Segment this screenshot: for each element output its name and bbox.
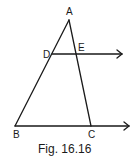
label-e: E [78,42,85,53]
label-b: B [13,129,20,140]
label-c: C [88,129,95,140]
label-d: D [43,49,50,60]
label-a: A [66,6,73,17]
figure-caption: Fig. 16.16 [38,142,92,156]
triangle-diagram: A D E B C Fig. 16.16 [0,0,138,160]
segment-ab [15,20,69,126]
segment-ac [69,20,91,126]
